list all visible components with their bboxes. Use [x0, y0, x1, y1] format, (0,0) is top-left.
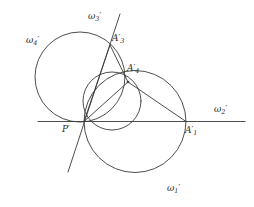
label-omega2: ω2′: [214, 104, 227, 116]
label-A1: A′1: [185, 125, 197, 137]
label-omega4: ω4′: [26, 35, 39, 47]
label-omega3: ω3′: [88, 11, 101, 23]
label-A4: A′4: [127, 63, 139, 75]
label-A3: A′3: [112, 33, 124, 45]
omega4-circle: [35, 32, 125, 122]
point-A4-dot: [127, 81, 130, 84]
geometry-figure: ω4′ ω3′ ω2′ ω1′ A′3 A′4 A′1 P′: [0, 0, 254, 207]
label-omega1: ω1′: [167, 183, 180, 195]
chord-A3-A4: [110, 45, 128, 82]
label-P: P′: [62, 124, 70, 134]
